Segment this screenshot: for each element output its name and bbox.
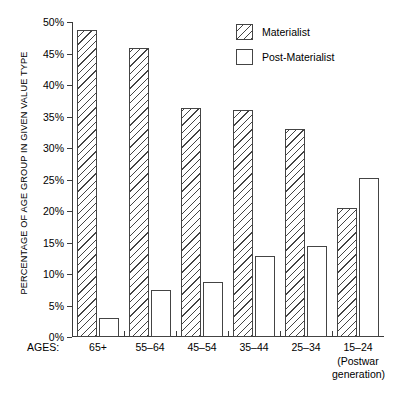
bar-materialist [233,110,253,337]
bar-postmaterialist [307,246,327,337]
category-label-main: 45–54 [187,341,216,353]
y-tick-label: 30% [43,142,64,154]
category-label: 65+ [72,341,124,353]
bar-chart: PERCENTAGE OF AGE GROUP IN GIVEN VALUE T… [0,0,393,401]
bar-materialist [181,108,201,337]
legend: Materialist Post-Materialist [236,24,386,74]
y-tick-label: 5% [49,300,64,312]
y-tick-label: 25% [43,174,64,186]
category-label: 25–34 [280,341,332,353]
category-label-sub: generation) [332,368,384,381]
bar-postmaterialist [151,290,171,337]
bar-postmaterialist [359,178,379,337]
category-label-main: 55–64 [135,341,164,353]
legend-item-materialist: Materialist [236,24,386,40]
legend-item-post-materialist: Post-Materialist [236,49,386,65]
category-label-sub: (Postwar [332,355,384,368]
bar-group [176,22,228,337]
bar-materialist [129,48,149,337]
category-separator [332,331,333,337]
bar-postmaterialist [203,282,223,337]
category-separator [176,331,177,337]
y-tick-label: 40% [43,79,64,91]
y-tick-label: 15% [43,237,64,249]
category-label: 45–54 [176,341,228,353]
legend-swatch-hatch-icon [236,24,253,40]
category-labels: 65+55–6445–5435–4425–3415–24(Postwargene… [72,341,384,399]
y-tick-mark [67,337,72,338]
legend-swatch-solid-icon [236,49,253,65]
y-tick-label: 20% [43,205,64,217]
category-separator [280,331,281,337]
bar-materialist [77,30,97,337]
category-separator [228,331,229,337]
y-tick-label: 35% [43,111,64,123]
y-tick-label: 45% [43,48,64,60]
bar-group [72,22,124,337]
bar-materialist [285,129,305,337]
legend-label: Post-Materialist [262,51,334,63]
bar-group [124,22,176,337]
bar-postmaterialist [255,256,275,337]
y-tick-label: 10% [43,268,64,280]
bar-materialist [337,208,357,337]
legend-label: Materialist [262,26,310,38]
y-tick-label: 0% [49,331,64,343]
bar-postmaterialist [99,318,119,337]
category-label-main: 35–44 [239,341,268,353]
category-label: 55–64 [124,341,176,353]
category-label: 35–44 [228,341,280,353]
category-label: 15–24(Postwargeneration) [332,341,384,381]
category-label-main: 65+ [89,341,107,353]
category-separator [124,331,125,337]
y-axis-title: PERCENTAGE OF AGE GROUP IN GIVEN VALUE T… [19,13,29,333]
category-label-main: 15–24 [343,341,372,353]
category-label-main: 25–34 [291,341,320,353]
y-tick-label: 50% [43,16,64,28]
